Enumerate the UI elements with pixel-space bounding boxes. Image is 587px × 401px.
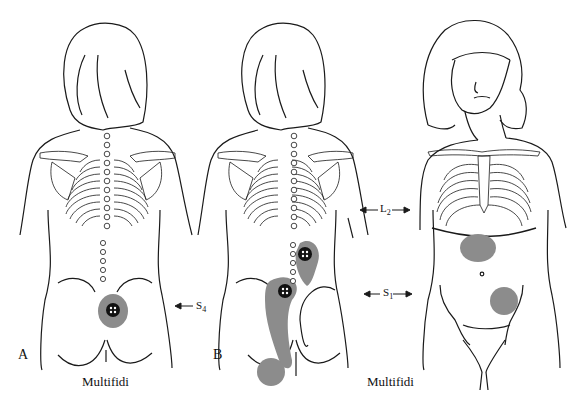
caption-a: Multifidi — [82, 374, 129, 390]
figure-b-skeleton — [218, 151, 353, 226]
trigger-point-icon — [298, 247, 312, 261]
s4-arrow-icon — [175, 303, 193, 309]
referral-zone-coccyx — [257, 358, 285, 386]
level-label-s4: S4 — [196, 299, 206, 314]
level-label-l2: L2 — [380, 202, 391, 217]
illustration — [0, 0, 587, 401]
referral-zone-abdomen-lower — [490, 287, 518, 315]
panel-label-a: A — [18, 347, 28, 363]
figure-c-skeleton — [428, 150, 540, 226]
figure-a-referral — [98, 294, 128, 328]
figure-c-referral — [460, 234, 518, 315]
trigger-point-icon — [278, 284, 292, 298]
referral-zone-abdomen-upper — [460, 234, 496, 262]
figure-multifidi-referral: A B Multifidi Multifidi S4 L2 S1 — [0, 0, 587, 401]
panel-label-b: B — [213, 347, 222, 363]
caption-b: Multifidi — [367, 374, 414, 390]
figure-b-referral — [257, 241, 319, 386]
trigger-point-icon — [106, 303, 120, 317]
figure-a-spine — [100, 133, 109, 281]
level-label-s1: S1 — [383, 286, 393, 301]
